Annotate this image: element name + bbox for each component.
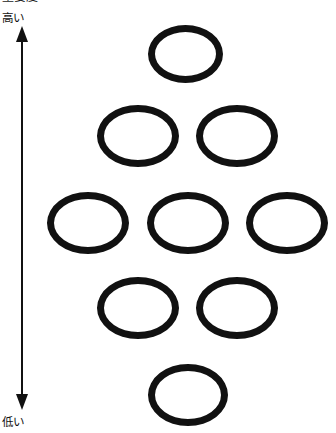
ellipse-node	[196, 277, 278, 339]
axis-label-high: 高い	[2, 12, 24, 25]
ellipse-node	[148, 25, 223, 83]
ellipse-node	[196, 105, 278, 167]
ellipse-node	[97, 277, 179, 339]
ellipse-node	[147, 192, 229, 254]
double-headed-arrow-icon	[10, 26, 36, 410]
importance-axis-arrow	[10, 26, 36, 410]
diagram-canvas: 重要度 高い 低い	[0, 0, 336, 433]
axis-label-low: 低い	[2, 416, 24, 429]
ellipse-node	[47, 192, 129, 254]
ellipse-node	[148, 364, 228, 426]
ellipse-node	[97, 105, 179, 167]
ellipse-node	[246, 192, 328, 254]
top-caption: 重要度	[2, 0, 38, 3]
